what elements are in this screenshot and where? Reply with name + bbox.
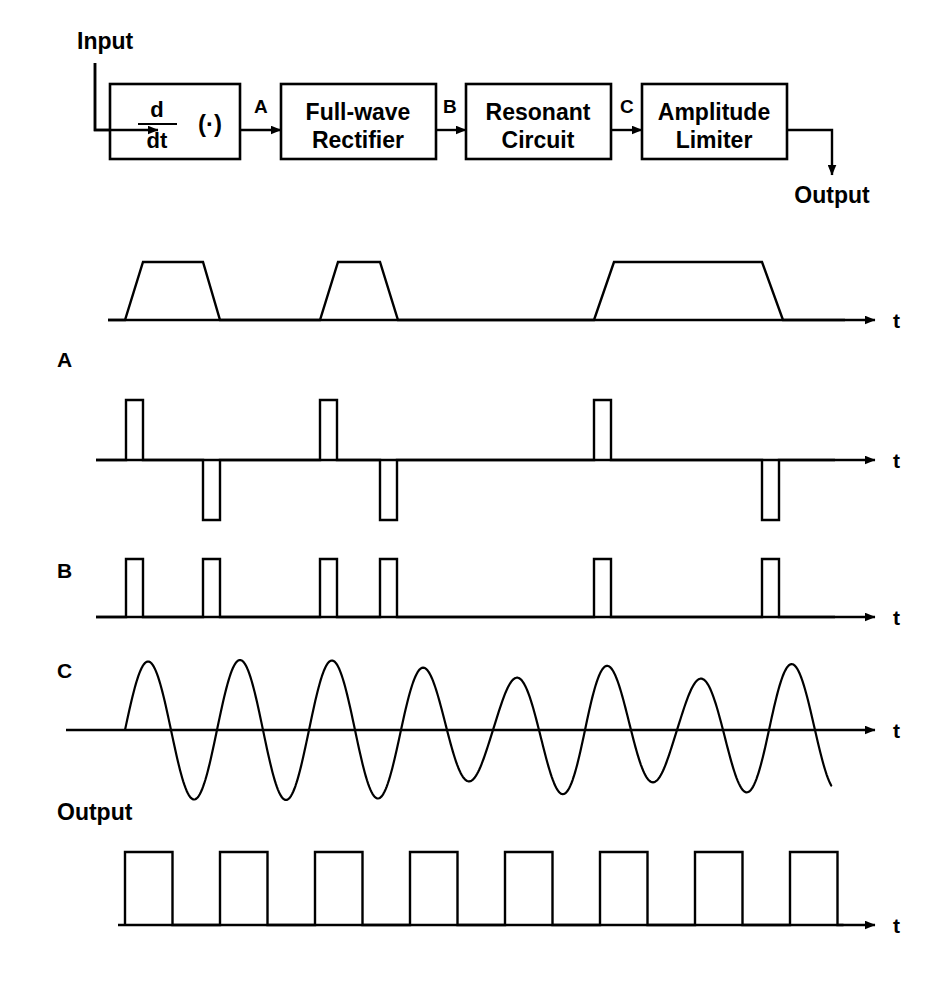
- waveform-a-axis-label: t: [893, 449, 900, 472]
- waveform-c-axis-label: t: [893, 719, 900, 742]
- figure-canvas: Input d dt (·) A Full-wave Rectifier B: [0, 0, 937, 981]
- input-label: Input: [77, 28, 134, 54]
- waveform-b: B t: [57, 559, 900, 629]
- rectifier-line-2: Rectifier: [312, 127, 404, 153]
- input-connector-stem: [95, 63, 110, 130]
- waveform-c: C t: [57, 659, 900, 800]
- waveform-input: t: [108, 262, 900, 332]
- waveform-c-label: C: [57, 659, 72, 682]
- waveform-output-axis-label: t: [893, 914, 900, 937]
- waveform-output-label: Output: [57, 799, 133, 825]
- block-full-wave-rectifier[interactable]: Full-wave Rectifier: [281, 84, 436, 159]
- output-connector: [787, 130, 832, 175]
- waveform-output-trace: [125, 852, 844, 925]
- tap-label-c: C: [620, 96, 634, 117]
- waveform-b-label: B: [57, 559, 72, 582]
- resonant-line-2: Circuit: [502, 127, 575, 153]
- block-differentiator[interactable]: d dt (·): [110, 84, 240, 159]
- derivative-operand: (·): [198, 110, 222, 137]
- waveform-a: A t: [57, 348, 900, 520]
- limiter-line-1: Amplitude: [658, 99, 770, 125]
- block-resonant-circuit[interactable]: Resonant Circuit: [466, 84, 611, 159]
- block-diagram-and-waveforms: Input d dt (·) A Full-wave Rectifier B: [0, 0, 937, 981]
- rectifier-line-1: Full-wave: [306, 99, 411, 125]
- tap-label-a: A: [254, 96, 268, 117]
- resonant-line-1: Resonant: [486, 99, 591, 125]
- block-diagram: Input d dt (·) A Full-wave Rectifier B: [77, 28, 870, 208]
- limiter-line-2: Limiter: [676, 127, 753, 153]
- waveform-b-trace: [96, 559, 835, 617]
- derivative-numerator: d: [150, 97, 163, 122]
- output-label: Output: [794, 182, 870, 208]
- waveform-input-trace: [108, 262, 845, 320]
- waveform-output: Output t: [57, 799, 900, 937]
- tap-label-b: B: [443, 96, 457, 117]
- waveform-input-axis-label: t: [893, 309, 900, 332]
- input-connector: [95, 63, 158, 130]
- block-amplitude-limiter[interactable]: Amplitude Limiter: [642, 84, 787, 159]
- derivative-denominator: dt: [147, 128, 168, 153]
- waveform-b-axis-label: t: [893, 606, 900, 629]
- waveform-a-label: A: [57, 348, 72, 371]
